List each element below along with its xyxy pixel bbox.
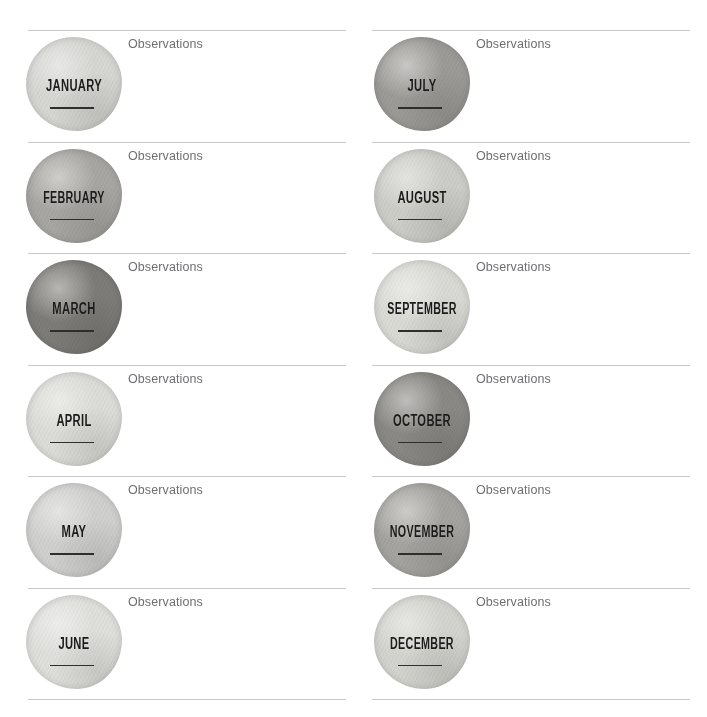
row-divider: [372, 365, 690, 366]
left-column: Observations JANUARY Observations: [28, 0, 346, 717]
right-column: Observations JULY Observations: [372, 0, 690, 717]
month-swatch-may[interactable]: MAY: [26, 483, 130, 583]
swatch-edge: [26, 260, 122, 354]
row-divider: [28, 253, 346, 254]
month-swatch-september[interactable]: SEPTEMBER: [374, 260, 478, 360]
month-swatch-november[interactable]: NOVEMBER: [374, 483, 478, 583]
month-row-december[interactable]: Observations DECEMBER: [372, 588, 690, 700]
month-row-april[interactable]: Observations APRIL: [28, 365, 346, 477]
write-on-line[interactable]: [398, 553, 442, 555]
write-on-line[interactable]: [398, 107, 442, 109]
month-row-january[interactable]: Observations JANUARY: [28, 30, 346, 142]
observations-label: Observations: [476, 483, 551, 497]
month-row-may[interactable]: Observations MAY: [28, 476, 346, 588]
write-on-line[interactable]: [50, 219, 94, 221]
month-swatch-april[interactable]: APRIL: [26, 372, 130, 472]
column-bottom-divider: [28, 699, 346, 700]
month-row-october[interactable]: Observations OCTOBER: [372, 365, 690, 477]
row-divider: [28, 30, 346, 31]
month-swatch-january[interactable]: JANUARY: [26, 37, 130, 137]
write-on-line[interactable]: [50, 330, 94, 332]
observations-label: Observations: [128, 483, 203, 497]
month-row-september[interactable]: Observations SEPTEMBER: [372, 253, 690, 365]
swatch-edge: [26, 37, 122, 131]
observation-log-sheet: Observations JANUARY Observations: [0, 0, 707, 717]
observations-label: Observations: [128, 149, 203, 163]
row-divider: [372, 30, 690, 31]
month-swatch-december[interactable]: DECEMBER: [374, 595, 478, 695]
month-row-november[interactable]: Observations NOVEMBER: [372, 476, 690, 588]
month-swatch-october[interactable]: OCTOBER: [374, 372, 478, 472]
month-swatch-march[interactable]: MARCH: [26, 260, 130, 360]
month-swatch-june[interactable]: JUNE: [26, 595, 130, 695]
write-on-line[interactable]: [398, 219, 442, 221]
swatch-edge: [374, 149, 470, 243]
swatch-edge: [26, 372, 122, 466]
swatch-edge: [374, 483, 470, 577]
observations-label: Observations: [476, 37, 551, 51]
row-divider: [28, 588, 346, 589]
month-row-march[interactable]: Observations MARCH: [28, 253, 346, 365]
row-divider: [372, 253, 690, 254]
row-divider: [28, 365, 346, 366]
row-divider: [372, 476, 690, 477]
swatch-edge: [374, 595, 470, 689]
swatch-edge: [26, 483, 122, 577]
write-on-line[interactable]: [398, 442, 442, 444]
month-row-june[interactable]: Observations JUNE: [28, 588, 346, 700]
row-divider: [372, 588, 690, 589]
observations-label: Observations: [476, 260, 551, 274]
row-divider: [28, 476, 346, 477]
observations-label: Observations: [476, 595, 551, 609]
swatch-edge: [374, 260, 470, 354]
observations-label: Observations: [128, 372, 203, 386]
swatch-edge: [26, 149, 122, 243]
month-swatch-august[interactable]: AUGUST: [374, 149, 478, 249]
month-swatch-july[interactable]: JULY: [374, 37, 478, 137]
write-on-line[interactable]: [50, 442, 94, 444]
column-bottom-divider: [372, 699, 690, 700]
write-on-line[interactable]: [398, 665, 442, 667]
write-on-line[interactable]: [50, 107, 94, 109]
month-swatch-february[interactable]: FEBRUARY: [26, 149, 130, 249]
row-divider: [372, 142, 690, 143]
swatch-edge: [374, 372, 470, 466]
observations-label: Observations: [476, 372, 551, 386]
write-on-line[interactable]: [50, 553, 94, 555]
swatch-edge: [26, 595, 122, 689]
row-divider: [28, 142, 346, 143]
month-row-july[interactable]: Observations JULY: [372, 30, 690, 142]
observations-label: Observations: [128, 595, 203, 609]
month-row-february[interactable]: Observations FEBRUARY: [28, 142, 346, 254]
month-row-august[interactable]: Observations AUGUST: [372, 142, 690, 254]
observations-label: Observations: [476, 149, 551, 163]
write-on-line[interactable]: [398, 330, 442, 332]
observations-label: Observations: [128, 37, 203, 51]
swatch-edge: [374, 37, 470, 131]
observations-label: Observations: [128, 260, 203, 274]
write-on-line[interactable]: [50, 665, 94, 667]
